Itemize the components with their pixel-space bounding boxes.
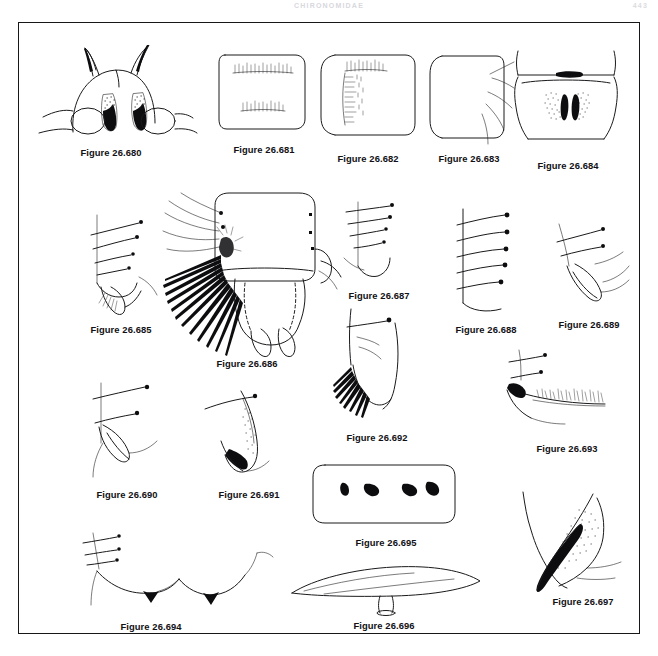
figure-26-683-caption: Figure 26.683 <box>438 153 499 164</box>
figure-26-689: Figure 26.689 <box>537 218 642 333</box>
running-head-title: CHIRONOMIDAE <box>0 2 658 9</box>
figure-26-692: Figure 26.692 <box>319 303 439 443</box>
figure-26-690-caption: Figure 26.690 <box>96 489 157 500</box>
figure-26-689-artwork <box>537 218 642 313</box>
page-number: 443 <box>633 2 648 9</box>
figure-26-691-artwork <box>191 381 306 481</box>
figure-26-697-artwork <box>497 488 637 598</box>
figure-26-696-artwork <box>284 563 484 615</box>
figure-26-695-artwork <box>309 461 464 529</box>
figure-26-684-artwork <box>502 37 632 152</box>
figure-26-691: Figure 26.691 <box>191 381 306 506</box>
figure-26-688-caption: Figure 26.688 <box>455 324 516 335</box>
figure-26-680-caption: Figure 26.680 <box>80 147 141 158</box>
figure-26-690: Figure 26.690 <box>69 381 184 506</box>
figure-26-686-caption: Figure 26.686 <box>216 358 277 369</box>
figure-26-695-caption: Figure 26.695 <box>355 537 416 548</box>
figure-26-688: Figure 26.688 <box>431 205 541 330</box>
figure-26-694-artwork <box>59 531 274 611</box>
figure-26-682: Figure 26.682 <box>309 45 424 175</box>
figure-26-694: Figure 26.694 <box>59 531 274 636</box>
figure-26-681: Figure 26.681 <box>209 45 319 165</box>
figure-26-694-caption: Figure 26.694 <box>120 621 181 632</box>
figure-26-688-artwork <box>431 205 541 315</box>
figure-26-693-caption: Figure 26.693 <box>536 443 597 454</box>
figure-26-682-caption: Figure 26.682 <box>337 153 398 164</box>
figure-26-687: Figure 26.687 <box>324 198 429 308</box>
figure-plate-frame: Figure 26.680 <box>18 22 640 634</box>
figure-26-697-caption: Figure 26.697 <box>552 596 613 607</box>
figure-26-680-artwork <box>33 37 183 142</box>
figure-26-682-artwork <box>309 45 424 145</box>
figure-26-681-artwork <box>209 45 319 140</box>
figure-26-696: Figure 26.696 <box>284 563 484 635</box>
figure-plate-inner: Figure 26.680 <box>19 23 639 633</box>
figure-26-680: Figure 26.680 <box>33 37 183 167</box>
figure-26-692-caption: Figure 26.692 <box>346 432 407 443</box>
figure-26-686-artwork <box>159 183 344 358</box>
figure-26-681-caption: Figure 26.681 <box>233 144 294 155</box>
figure-26-695: Figure 26.695 <box>309 461 464 551</box>
figure-26-697: Figure 26.697 <box>497 488 637 618</box>
figure-26-693-artwork <box>479 346 629 441</box>
figure-26-686: Figure 26.686 <box>159 183 344 378</box>
figure-26-687-artwork <box>324 198 429 280</box>
figure-26-691-caption: Figure 26.691 <box>218 489 279 500</box>
figure-26-684-caption: Figure 26.684 <box>537 160 598 171</box>
figure-26-687-caption: Figure 26.687 <box>348 290 409 301</box>
figure-26-684: Figure 26.684 <box>502 37 632 177</box>
figure-26-685-caption: Figure 26.685 <box>90 324 151 335</box>
figure-26-690-artwork <box>69 381 184 481</box>
figure-26-693: Figure 26.693 <box>479 346 629 461</box>
figure-26-696-caption: Figure 26.696 <box>353 620 414 631</box>
page-header: CHIRONOMIDAE 443 <box>0 0 658 16</box>
figure-26-692-artwork <box>319 303 439 425</box>
figure-26-689-caption: Figure 26.689 <box>558 319 619 330</box>
